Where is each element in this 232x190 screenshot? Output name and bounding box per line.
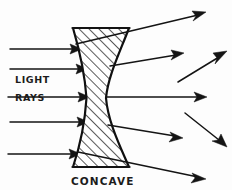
rays-label: RAYS bbox=[15, 92, 45, 103]
light-label: LIGHT bbox=[15, 74, 50, 85]
incoming-ray-1 bbox=[10, 44, 82, 54]
incoming-ray-5 bbox=[8, 149, 81, 159]
outgoing-ray-3 bbox=[106, 92, 207, 102]
outgoing-ray-4 bbox=[108, 125, 183, 142]
free-ray-lower bbox=[185, 113, 227, 147]
concave-lens-diagram: LIGHT RAYS CONCAVE bbox=[0, 0, 232, 190]
incoming-ray-2 bbox=[10, 64, 88, 74]
incoming-ray-4 bbox=[10, 117, 89, 127]
optics-diagram-canvas: LIGHT RAYS CONCAVE bbox=[0, 0, 232, 190]
outgoing-ray-2 bbox=[110, 50, 184, 66]
free-ray-upper bbox=[178, 51, 227, 82]
concave-label: CONCAVE bbox=[71, 175, 135, 187]
free-ray-group bbox=[178, 51, 227, 147]
